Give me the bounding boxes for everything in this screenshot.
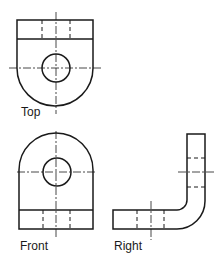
front-view: Front	[17, 131, 96, 253]
front-view-label: Front	[20, 239, 49, 253]
right-view-outline	[113, 134, 205, 229]
right-view: Right	[113, 134, 215, 253]
top-view-outline	[17, 20, 93, 106]
top-view-label: Top	[21, 105, 41, 119]
right-view-label: Right	[114, 239, 143, 253]
top-view: Top	[9, 12, 103, 119]
orthographic-drawing: Top Front Right	[0, 0, 223, 266]
